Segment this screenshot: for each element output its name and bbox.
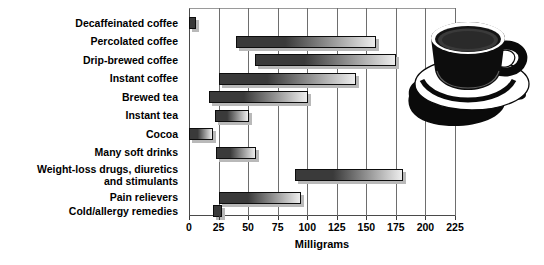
bar — [216, 147, 256, 159]
coffee-cup-and-saucer-icon — [404, 8, 544, 160]
x-tick — [425, 216, 426, 220]
x-tick — [189, 216, 190, 220]
x-tick — [248, 216, 249, 220]
x-tick-label: 150 — [351, 221, 381, 233]
category-label: Weight-loss drugs, diuretics and stimula… — [0, 164, 178, 187]
bar — [209, 91, 308, 103]
bar — [189, 128, 213, 140]
x-tick-label: 225 — [440, 221, 470, 233]
x-axis-title: Milligrams — [189, 238, 455, 250]
x-tick — [278, 216, 279, 220]
bar — [295, 169, 403, 181]
caffeine-content-chart: Decaffeinated coffeePercolated coffeeDri… — [0, 0, 544, 265]
category-label: Instant tea — [0, 110, 178, 122]
x-tick — [219, 216, 220, 220]
bar — [255, 54, 396, 66]
category-label: Decaffeinated coffee — [0, 18, 178, 30]
x-tick — [455, 216, 456, 220]
bar — [219, 192, 302, 204]
x-tick-label: 25 — [204, 221, 234, 233]
x-tick — [337, 216, 338, 220]
category-label-column: Decaffeinated coffeePercolated coffeeDri… — [0, 0, 184, 218]
category-label: Percolated coffee — [0, 36, 178, 48]
category-label: Brewed tea — [0, 92, 178, 104]
x-tick-label: 200 — [410, 221, 440, 233]
x-tick-label: 175 — [381, 221, 411, 233]
category-label: Instant coffee — [0, 73, 178, 85]
bar — [236, 36, 376, 48]
x-axis: 0255075100125150175200225 — [189, 216, 455, 238]
bar — [189, 17, 196, 29]
x-tick-label: 0 — [174, 221, 204, 233]
bar — [215, 110, 249, 122]
category-label: Drip-brewed coffee — [0, 55, 178, 67]
gridline — [396, 8, 397, 216]
bar — [219, 73, 356, 85]
category-label: Many soft drinks — [0, 147, 178, 159]
x-tick-label: 125 — [322, 221, 352, 233]
x-tick — [396, 216, 397, 220]
x-tick-label: 50 — [233, 221, 263, 233]
x-tick — [307, 216, 308, 220]
x-tick — [366, 216, 367, 220]
x-tick-label: 100 — [292, 221, 322, 233]
category-label: Cocoa — [0, 129, 178, 141]
category-label: Pain relievers — [0, 192, 178, 204]
x-tick-label: 75 — [263, 221, 293, 233]
category-label: Cold/allergy remedies — [0, 206, 178, 218]
